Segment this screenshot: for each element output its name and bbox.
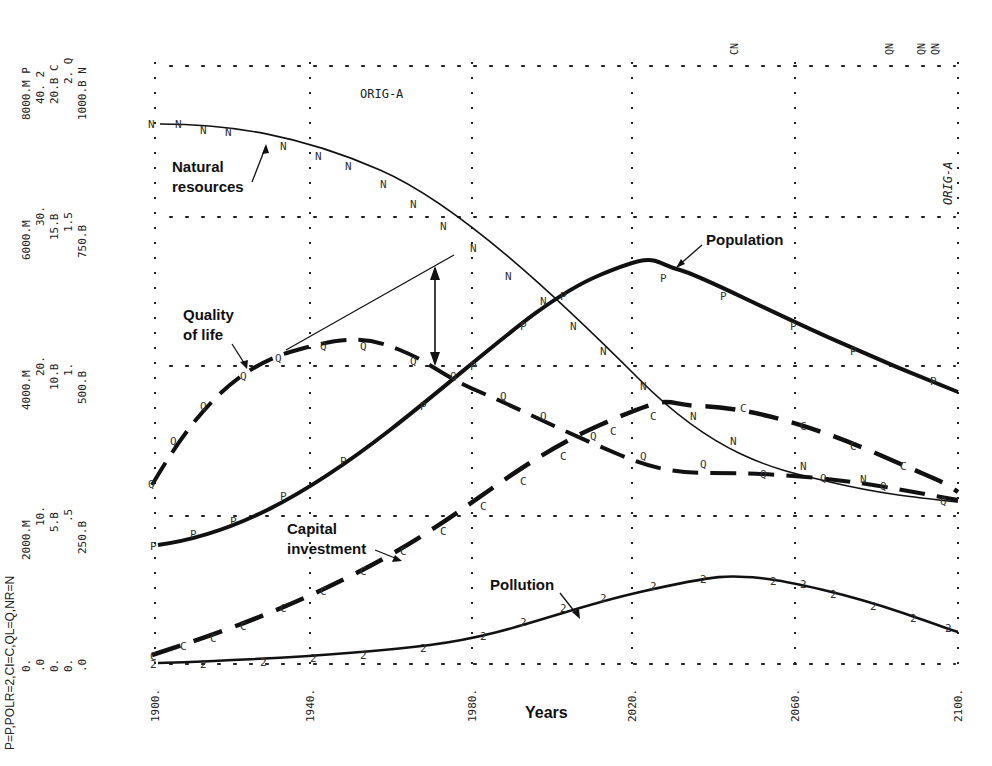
svg-text:Q: Q [275, 352, 282, 365]
svg-text:N: N [505, 270, 512, 283]
svg-text:2: 2 [420, 642, 427, 655]
svg-text:2: 2 [870, 600, 877, 613]
svg-text:C: C [240, 620, 247, 633]
y-tick-pop-2000: 2000.M [20, 520, 33, 560]
y-axis-labels: 8000.M P 40. 2 20.B C 2. Q 1000.B N 6000… [3, 58, 89, 751]
svg-text:Q: Q [500, 390, 507, 403]
svg-text:Q: Q [170, 435, 177, 448]
svg-text:Q: Q [760, 468, 767, 481]
svg-text:C: C [560, 450, 567, 463]
y-tick-ql-1: 1. [62, 363, 75, 376]
svg-text:N: N [730, 435, 737, 448]
y-tick-pol-10: 10. [34, 506, 47, 526]
svg-text:C: C [320, 585, 327, 598]
marker-qn-3: QN [930, 43, 941, 55]
y-tick-pop-0: 0. [20, 659, 33, 672]
label-natural-resources-1: Natural [172, 158, 224, 175]
svg-text:2: 2 [650, 580, 657, 593]
label-quality-2: of life [183, 326, 223, 343]
svg-text:P: P [560, 290, 567, 303]
x-tick-1980: 1980. [466, 689, 479, 722]
svg-text:Q: Q [940, 495, 947, 508]
label-population: Population [706, 231, 784, 248]
svg-text:N: N [175, 118, 182, 131]
x-tick-2060: 2060. [789, 689, 802, 722]
run-label-top: ORIG-A [360, 87, 404, 101]
svg-text:Q: Q [200, 400, 207, 413]
y-tick-nr-1000: 1000.B N [76, 67, 89, 120]
y-tick-nr-500: 500.B [76, 371, 89, 404]
svg-text:N: N [410, 198, 417, 211]
y-tick-pop-6000: 6000.M [20, 220, 33, 260]
svg-text:Q: Q [360, 340, 367, 353]
svg-text:C: C [180, 640, 187, 653]
svg-text:2: 2 [310, 652, 317, 665]
svg-text:2: 2 [200, 658, 207, 671]
svg-text:Q: Q [540, 410, 547, 423]
y-tick-ql-2: 2. Q [62, 58, 75, 85]
series-capital-investment [152, 402, 958, 655]
svg-text:N: N [148, 118, 155, 131]
y-tick-ci-0: 0. [48, 659, 61, 672]
arrowhead-quality [240, 360, 248, 369]
svg-text:N: N [280, 140, 287, 153]
svg-text:P: P [190, 528, 197, 541]
svg-text:Q: Q [590, 430, 597, 443]
x-tick-1940: 1940. [304, 689, 317, 722]
x-axis-title: Years [525, 704, 568, 721]
svg-text:2: 2 [150, 658, 157, 671]
svg-text:N: N [800, 460, 807, 473]
svg-text:2: 2 [945, 622, 952, 635]
svg-text:C: C [800, 420, 807, 433]
run-label-right: ORIG-A [941, 162, 955, 205]
svg-text:Q: Q [640, 450, 647, 463]
label-pollution: Pollution [490, 576, 554, 593]
svg-text:P: P [150, 540, 157, 553]
series-pollution [158, 576, 958, 663]
svg-text:C: C [400, 545, 407, 558]
svg-text:Q: Q [410, 355, 417, 368]
svg-text:Q: Q [240, 370, 247, 383]
y-tick-nr-250: 250.B [76, 521, 89, 554]
svg-text:2: 2 [830, 588, 837, 601]
svg-text:P: P [790, 320, 797, 333]
grid [155, 62, 958, 672]
label-natural-resources-2: resources [172, 178, 244, 195]
top-edge-markers: CN QN QN QN [729, 43, 941, 55]
svg-text:N: N [200, 124, 207, 137]
world-model-chart: 8000.M P 40. 2 20.B C 2. Q 1000.B N 6000… [0, 0, 992, 766]
svg-text:N: N [540, 295, 547, 308]
svg-text:P: P [420, 400, 427, 413]
x-tick-1900: 1900. [149, 689, 162, 722]
label-capital-1: Capital [287, 520, 337, 537]
svg-text:N: N [225, 126, 232, 139]
svg-text:2: 2 [520, 616, 527, 629]
svg-text:C: C [650, 410, 657, 423]
svg-text:Q: Q [450, 370, 457, 383]
svg-text:C: C [440, 525, 447, 538]
y-tick-pol-20: 20. [34, 356, 47, 376]
svg-text:2: 2 [260, 656, 267, 669]
svg-text:2: 2 [600, 592, 607, 605]
x-tick-2100: 2100. [952, 689, 965, 722]
svg-text:N: N [315, 150, 322, 163]
x-tick-2020: 2020. [626, 689, 639, 722]
svg-text:C: C [740, 402, 747, 415]
y-tick-ql-1-5: 1.5 [62, 212, 75, 232]
svg-text:P: P [850, 345, 857, 358]
y-tick-pop-4000: 4000.M [20, 370, 33, 410]
svg-text:N: N [690, 410, 697, 423]
y-tick-ci-5: 5.B [48, 512, 61, 532]
svg-text:Q: Q [148, 478, 155, 491]
y-tick-pol-30: 30. [34, 206, 47, 226]
svg-text:2: 2 [800, 578, 807, 591]
svg-text:N: N [600, 345, 607, 358]
svg-text:N: N [440, 220, 447, 233]
svg-text:2: 2 [480, 630, 487, 643]
svg-text:Q: Q [700, 458, 707, 471]
series-quality-of-life [152, 340, 958, 500]
marker-qn-1: QN [884, 43, 895, 55]
svg-text:C: C [360, 565, 367, 578]
marker-cn: CN [729, 43, 740, 55]
svg-text:2: 2 [360, 649, 367, 662]
